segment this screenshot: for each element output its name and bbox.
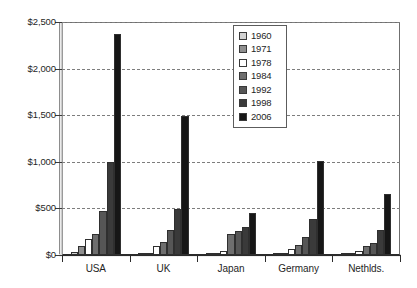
bar-1998: [309, 219, 316, 255]
x-axis-labels: USAUKJapanGermanyNethlds.: [62, 263, 400, 275]
bar-1992: [235, 231, 242, 255]
legend-swatch-icon: [239, 45, 247, 53]
bar-group-nethlds: [332, 22, 400, 255]
x-axis-label: UK: [130, 263, 198, 275]
y-tick-label: $2,000: [4, 64, 56, 74]
bar-1984: [160, 242, 167, 255]
legend-item-1984: 1984: [239, 70, 283, 84]
bar-1978: [288, 249, 295, 255]
legend-item-1998: 1998: [239, 97, 283, 111]
gridline-0: [62, 255, 400, 256]
bar-1971: [78, 246, 85, 255]
bar-1992: [167, 230, 174, 255]
y-tick-mark-2000: [55, 69, 62, 70]
x-tick-mark: [400, 255, 401, 262]
bar-chart: $0$500$1,000$1,500$2,000$2,500 USAUKJapa…: [0, 0, 417, 288]
bar-1998: [242, 227, 249, 255]
y-tick-label: $500: [4, 203, 56, 213]
bar-1992: [302, 237, 309, 255]
bar-1998: [107, 162, 114, 255]
bar-2006: [317, 161, 324, 255]
y-tick-mark-1000: [55, 162, 62, 163]
bar-1960: [71, 252, 78, 255]
y-tick-mark-0: [55, 255, 62, 256]
legend-swatch-icon: [239, 32, 247, 40]
legend-item-1978: 1978: [239, 56, 283, 70]
legend-swatch-icon: [239, 59, 247, 67]
bar-2006: [114, 34, 121, 255]
bar-1960: [341, 253, 348, 255]
legend-swatch-icon: [239, 86, 247, 94]
bar-group-uk: [130, 22, 198, 255]
x-tick-mark: [197, 255, 198, 262]
legend-label: 1960: [251, 31, 271, 41]
bar-1984: [227, 234, 234, 255]
legend-item-1971: 1971: [239, 43, 283, 57]
legend-item-1992: 1992: [239, 83, 283, 97]
legend-label: 1998: [251, 98, 271, 108]
bar-1971: [281, 253, 288, 255]
bar-1984: [295, 245, 302, 255]
legend-item-2006: 2006: [239, 110, 283, 124]
x-tick-mark: [265, 255, 266, 262]
bar-1998: [377, 230, 384, 255]
bar-1960: [273, 253, 280, 255]
legend-swatch-icon: [239, 113, 247, 121]
y-tick-mark-500: [55, 208, 62, 209]
y-tick-mark-1500: [55, 115, 62, 116]
bar-1978: [85, 239, 92, 255]
y-tick-label: $1,000: [4, 157, 56, 167]
y-tick-mark-2500: [55, 22, 62, 23]
bar-1971: [145, 253, 152, 255]
legend-label: 1992: [251, 85, 271, 95]
x-axis-label: Japan: [197, 263, 265, 275]
legend-label: 1971: [251, 44, 271, 54]
legend: 1960197119781984199219982006: [233, 25, 287, 128]
bar-2006: [181, 116, 188, 255]
bar-2006: [249, 213, 256, 255]
bar-1960: [206, 253, 213, 255]
bar-1984: [363, 246, 370, 255]
legend-label: 1978: [251, 58, 271, 68]
x-axis-label: Germany: [265, 263, 333, 275]
y-tick-label: $0: [4, 250, 56, 260]
x-tick-mark: [332, 255, 333, 262]
bar-1992: [99, 211, 106, 255]
x-tick-mark: [130, 255, 131, 262]
bar-groups: [62, 22, 400, 255]
legend-label: 1984: [251, 71, 271, 81]
bar-1998: [174, 209, 181, 255]
x-tick-mark: [62, 255, 63, 262]
legend-item-1960: 1960: [239, 29, 283, 43]
bar-2006: [384, 194, 391, 255]
bar-1984: [92, 234, 99, 255]
y-axis: $0$500$1,000$1,500$2,000$2,500: [0, 0, 56, 288]
bar-1960: [138, 253, 145, 255]
x-axis-label: Nethlds.: [332, 263, 400, 275]
y-tick-label: $1,500: [4, 110, 56, 120]
bar-1978: [355, 251, 362, 255]
legend-swatch-icon: [239, 99, 247, 107]
bar-group-usa: [62, 22, 130, 255]
bar-1978: [220, 251, 227, 255]
bar-1992: [370, 243, 377, 255]
y-tick-label: $2,500: [4, 17, 56, 27]
legend-label: 2006: [251, 112, 271, 122]
bar-1978: [153, 246, 160, 255]
x-axis-label: USA: [62, 263, 130, 275]
bar-1971: [213, 253, 220, 255]
bar-1971: [348, 253, 355, 255]
legend-swatch-icon: [239, 72, 247, 80]
